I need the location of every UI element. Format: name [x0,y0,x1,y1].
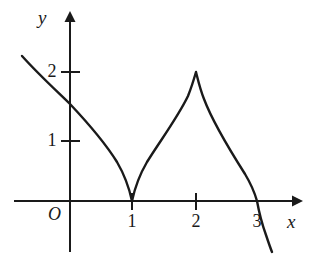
y-tick-label-1: 1 [44,131,60,149]
x-tick-label-2: 2 [188,212,204,230]
y-axis-label: y [38,8,46,27]
x-axis-arrow-icon [292,196,303,207]
x-axis-label: x [287,212,295,231]
x-tick-label-3: 3 [249,212,265,230]
y-tick-label-2: 2 [44,62,60,80]
x-tick-label-1: 1 [124,212,140,230]
y-axis-arrow-icon [65,11,76,22]
origin-label: O [48,205,61,223]
graph-figure: y x O 2 1 1 2 3 [0,0,314,262]
